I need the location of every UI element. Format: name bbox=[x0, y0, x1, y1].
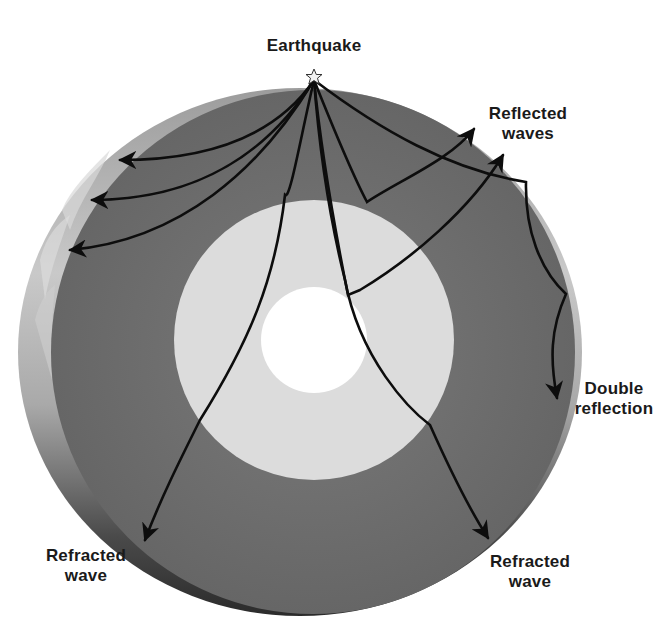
refracted-wave-left-label: Refracted wave bbox=[38, 546, 134, 586]
double-reflection-label: Double reflection bbox=[566, 379, 662, 419]
refracted-wave-right-label: Refracted wave bbox=[482, 552, 578, 592]
reflected-waves-label: Reflected waves bbox=[478, 104, 578, 144]
earth-cross-section-diagram bbox=[0, 0, 672, 634]
earthquake-label: Earthquake bbox=[262, 36, 366, 56]
